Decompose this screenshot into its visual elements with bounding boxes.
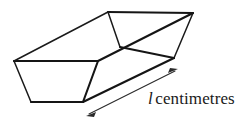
far-face-right-edge [174, 13, 193, 58]
rim-edge-left-upper [14, 12, 108, 61]
length-unit: centimetres [155, 89, 234, 108]
far-rim-top-edge [108, 12, 193, 13]
rim-edge-right-lower [98, 13, 193, 61]
near-face-left-edge [14, 61, 31, 102]
geometry-figure: lcentimetres [0, 0, 249, 127]
far-face-left-edge [108, 12, 120, 47]
length-label: lcentimetres [148, 90, 235, 107]
far-face-bottom-edge [120, 47, 174, 58]
